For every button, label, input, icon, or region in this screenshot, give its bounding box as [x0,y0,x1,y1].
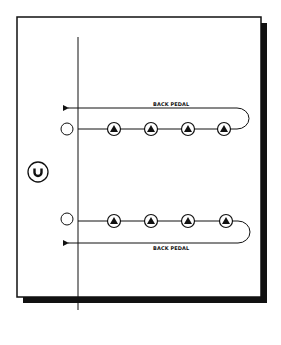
player-icon [145,215,158,228]
drill-diagram: C BACK PEDAL BACK PEDAL [0,0,281,345]
cone-icon [61,213,73,225]
player-icon [218,123,231,136]
player-icon [108,123,121,136]
player-icon [182,215,195,228]
player-icon [182,123,195,136]
player-icon [108,215,121,228]
back-pedal-label-top: BACK PEDAL [153,101,190,107]
back-pedal-label-bottom: BACK PEDAL [153,245,190,251]
player-icon [220,215,233,228]
diagram-frame [17,17,261,297]
cone-icon [61,123,73,135]
player-icon [145,123,158,136]
